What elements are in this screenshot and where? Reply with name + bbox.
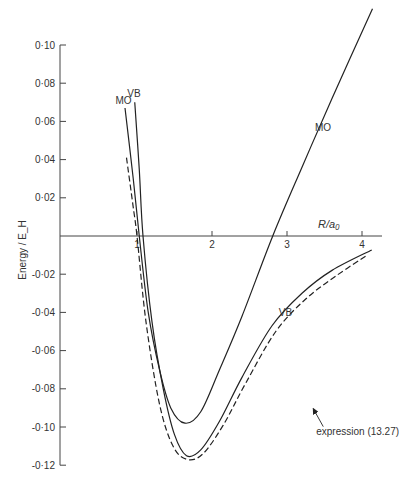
series-line-mo — [125, 9, 373, 424]
annotation-label: MO — [315, 122, 331, 133]
annotation-label: VB — [279, 307, 293, 318]
x-tick-label: 3 — [284, 239, 290, 250]
y-tick-label: 0·06 — [35, 116, 55, 127]
annotation-arrow — [313, 409, 323, 427]
y-ticks: 0·100·080·060·040·02-0·02-0·04-0·06-0·08… — [32, 40, 66, 471]
series-group — [125, 9, 373, 460]
y-tick-label: 0·10 — [35, 40, 55, 51]
y-tick-label: -0·10 — [32, 422, 56, 433]
annotation-label: expression (13.27) — [316, 426, 399, 437]
axes — [60, 45, 382, 465]
series-line-vb — [135, 102, 372, 456]
series-line-expression-13-27 — [127, 158, 368, 460]
y-tick-label: -0·06 — [32, 345, 56, 356]
x-ticks: 1234 — [134, 231, 365, 250]
y-tick-label: -0·12 — [32, 460, 56, 471]
y-tick-label: -0·04 — [32, 307, 56, 318]
y-tick-label: 0·08 — [35, 78, 55, 89]
x-axis-label: R/a₀ — [318, 218, 340, 230]
annotation-label: VB — [127, 88, 141, 99]
x-tick-label: 2 — [209, 239, 215, 250]
y-tick-label: 0·04 — [35, 154, 55, 165]
y-tick-label: -0·02 — [32, 269, 56, 280]
x-tick-label: 4 — [359, 239, 365, 250]
y-tick-label: -0·08 — [32, 383, 56, 394]
energy-curve-chart: 0·100·080·060·040·02-0·02-0·04-0·06-0·08… — [0, 0, 399, 486]
y-tick-label: 0·02 — [35, 192, 55, 203]
y-axis-label: Energy / E_H — [17, 220, 28, 279]
